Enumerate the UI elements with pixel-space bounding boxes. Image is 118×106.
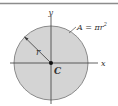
x-axis-label: x <box>101 59 106 68</box>
area-formula-label: A = πr2 <box>76 21 107 32</box>
centroid-label: C <box>54 66 62 76</box>
radius-label: r <box>36 47 41 57</box>
area-leader-line <box>69 27 76 33</box>
circle-area-diagram: y x r C A = πr2 <box>0 0 118 106</box>
centroid-point <box>49 61 53 65</box>
area-exponent: 2 <box>103 21 107 27</box>
y-axis-label: y <box>48 8 54 17</box>
area-formula-text: A = πr <box>76 23 105 32</box>
